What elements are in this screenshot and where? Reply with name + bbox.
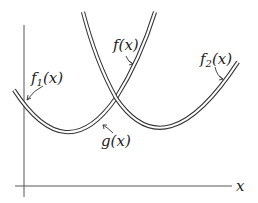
label-f1: f1(x) bbox=[30, 69, 63, 88]
label-f2: f2(x) bbox=[199, 50, 232, 69]
label-g: g(x) bbox=[101, 132, 131, 150]
label-x-axis: x bbox=[236, 177, 245, 195]
f2-arrowhead bbox=[219, 76, 223, 80]
f1-pointer-arrow bbox=[27, 86, 43, 100]
label-f: f(x) bbox=[112, 36, 139, 54]
diagram-canvas: f(x) f1(x) f2(x) g(x) x bbox=[0, 0, 258, 203]
diagram-svg: f(x) f1(x) f2(x) g(x) x bbox=[0, 0, 258, 203]
f2-pointer-arrow bbox=[215, 67, 223, 79]
f-arrowhead bbox=[129, 61, 133, 65]
